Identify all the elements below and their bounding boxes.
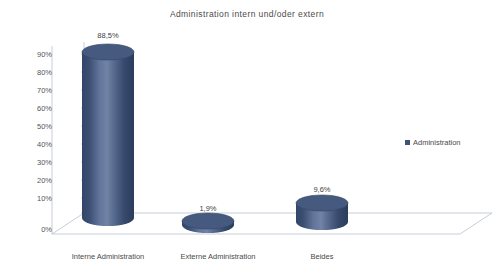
bar-top-cap <box>296 195 348 211</box>
x-tick-externe-administration: Externe Administration <box>180 252 255 261</box>
legend: Administration <box>405 138 461 147</box>
y-tick-60: 60% <box>18 104 52 113</box>
y-tick-0: 0% <box>18 225 52 234</box>
legend-item-label: Administration <box>413 138 461 147</box>
bar-body <box>82 52 134 226</box>
bar-top-cap <box>82 44 134 60</box>
chart-container: Administration intern und/oder extern <box>0 0 494 276</box>
y-tick-50: 50% <box>18 122 52 131</box>
bar-externe-administration[interactable] <box>182 213 234 233</box>
y-tick-10: 10% <box>18 194 52 203</box>
y-tick-80: 80% <box>18 68 52 77</box>
y-tick-30: 30% <box>18 158 52 167</box>
x-tick-beides: Beides <box>311 252 334 261</box>
y-tick-70: 70% <box>18 86 52 95</box>
square-marker-icon <box>405 140 410 145</box>
x-tick-interne-administration: Interne Administration <box>72 252 145 261</box>
y-tick-40: 40% <box>18 140 52 149</box>
data-label-beides: 9,6% <box>313 185 330 194</box>
y-tick-90: 90% <box>18 50 52 59</box>
data-label-interne-administration: 88,5% <box>97 31 118 40</box>
bar-interne-administration[interactable] <box>82 44 134 226</box>
y-tick-20: 20% <box>18 176 52 185</box>
bar-top-cap <box>182 213 234 229</box>
y-axis-labels: 90% 80% 70% 60% 50% 40% 30% 20% 10% 0% <box>18 0 52 276</box>
data-label-externe-administration: 1,9% <box>199 204 216 213</box>
bar-beides[interactable] <box>296 195 348 230</box>
